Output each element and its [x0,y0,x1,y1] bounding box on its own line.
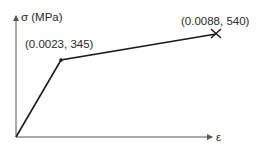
fracture-point-label: (0.0088, 540) [181,15,250,27]
fracture-point-x-icon [211,29,221,38]
stress-strain-diagram: σ (MPa) ε (0.0023, 345) (0.0088, 540) [0,0,265,149]
yield-point-dot [59,58,63,62]
yield-point-label: (0.0023, 345) [25,38,94,50]
x-axis-label: ε [216,131,221,143]
y-axis-label: σ (MPa) [21,11,63,23]
